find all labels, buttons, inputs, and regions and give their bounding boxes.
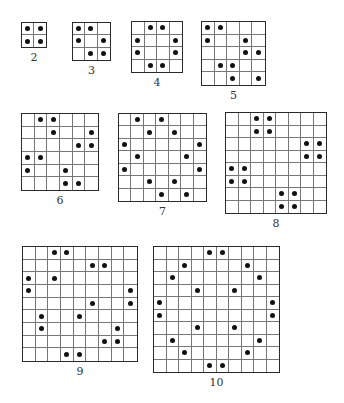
grid-cell [156, 189, 168, 201]
grid-cell [170, 22, 183, 35]
grid-cell [240, 72, 253, 85]
dot-marker [184, 154, 189, 159]
grid-cell [48, 247, 61, 260]
grid-cell [86, 310, 99, 323]
dot-marker [157, 313, 162, 318]
grid-cell [61, 323, 74, 336]
grid-cell [204, 260, 217, 273]
grid-cell [194, 126, 206, 138]
dot-marker [25, 39, 30, 44]
dot-marker [230, 63, 235, 68]
grid-cell [61, 247, 74, 260]
grid-cell [254, 310, 267, 323]
grid-cell [74, 348, 87, 361]
grid-cell [169, 126, 181, 138]
grid-cell [167, 260, 180, 273]
grid-cell [242, 260, 255, 273]
grid-cell [217, 322, 230, 335]
grid-label-4: 4 [142, 76, 172, 89]
grid-cell [23, 272, 36, 285]
grid-cell [254, 360, 267, 373]
grid-cell [35, 114, 48, 127]
grid-label-5: 5 [219, 89, 249, 102]
grid-cell [61, 285, 74, 298]
grid-cell [73, 48, 85, 60]
grid-cell [229, 297, 242, 310]
grid-cell [73, 127, 86, 140]
grid-cell [226, 138, 239, 151]
grid-label-9: 9 [65, 365, 95, 378]
grid-cell [124, 323, 137, 336]
grid-cell [22, 177, 35, 190]
dot-marker [184, 192, 189, 197]
grid-cell [267, 360, 280, 373]
grid-cell [192, 285, 205, 298]
grid-cell [217, 310, 230, 323]
grid-cell [60, 177, 73, 190]
dot-marker [304, 154, 309, 159]
dot-marker [147, 179, 152, 184]
grid-cell [251, 163, 264, 176]
grid-cell [112, 336, 125, 349]
dot-marker [64, 352, 69, 357]
grid-cell [48, 260, 61, 273]
grid-cell [314, 151, 327, 164]
grid-cell [194, 164, 206, 176]
dot-marker [218, 63, 223, 68]
grid-cell [276, 163, 289, 176]
grid-cell [156, 164, 168, 176]
dot-marker [122, 142, 127, 147]
grid-cell [34, 35, 46, 47]
grid-cell [226, 201, 239, 214]
grid-label-2: 2 [19, 51, 49, 64]
grid-cell [61, 272, 74, 285]
grid-cell [301, 138, 314, 151]
grid-cell [170, 60, 183, 73]
grid-cell [239, 138, 252, 151]
grid-cell [157, 60, 170, 73]
dot-marker [242, 166, 247, 171]
grid-cell [217, 347, 230, 360]
grid-cell [132, 60, 145, 73]
grid-cell [61, 260, 74, 273]
grid-cell [229, 260, 242, 273]
dot-marker [267, 116, 272, 121]
grid-cell [192, 322, 205, 335]
dot-marker [135, 38, 140, 43]
grid-cell [86, 285, 99, 298]
grid-cell [170, 47, 183, 60]
dot-marker [243, 50, 248, 55]
grid-cell [179, 272, 192, 285]
dot-marker [135, 154, 140, 159]
dot-grid-7 [118, 113, 207, 202]
grid-cell [242, 310, 255, 323]
dot-marker [159, 192, 164, 197]
dot-marker [148, 63, 153, 68]
grid-cell [251, 126, 264, 139]
grid-cell [99, 285, 112, 298]
grid-cell [169, 176, 181, 188]
grid-cell [179, 285, 192, 298]
grid-cell [154, 247, 167, 260]
dot-marker [232, 325, 237, 330]
grid-cell [181, 114, 193, 126]
dot-marker [38, 117, 43, 122]
grid-cell [217, 272, 230, 285]
grid-cell [314, 138, 327, 151]
grid-cell [267, 347, 280, 360]
dot-marker [245, 263, 250, 268]
grid-cell [194, 176, 206, 188]
grid-cell [131, 126, 143, 138]
grid-cell [170, 35, 183, 48]
dot-marker [230, 76, 235, 81]
grid-cell [229, 335, 242, 348]
dot-marker [90, 263, 95, 268]
grid-cell [192, 310, 205, 323]
grid-cell [179, 247, 192, 260]
grid-cell [98, 23, 110, 35]
grid-cell [169, 139, 181, 151]
dot-marker [197, 167, 202, 172]
dot-marker [242, 179, 247, 184]
dot-marker [160, 63, 165, 68]
grid-cell [23, 348, 36, 361]
